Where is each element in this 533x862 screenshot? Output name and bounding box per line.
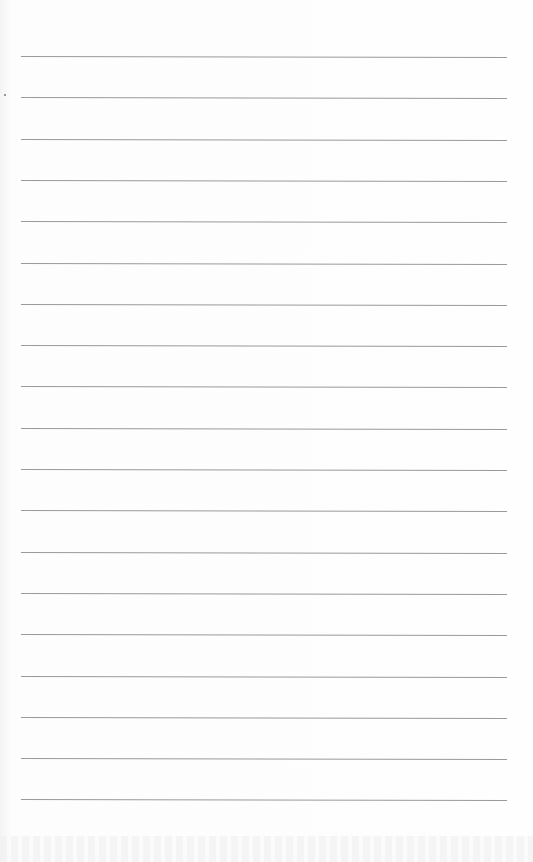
ruled-line <box>21 634 507 636</box>
ruled-line <box>21 139 507 141</box>
ruled-line <box>21 799 507 801</box>
ruled-line <box>21 758 507 760</box>
ruled-line <box>21 510 507 512</box>
ruled-line <box>21 97 507 99</box>
ruled-line <box>21 386 507 388</box>
ruled-line <box>21 56 507 58</box>
ruled-line <box>21 428 507 430</box>
ruled-line <box>21 221 507 223</box>
ruled-line <box>21 180 507 182</box>
ruled-page <box>0 0 533 862</box>
ruled-line <box>21 304 507 306</box>
ruled-line <box>21 593 507 595</box>
ruled-line <box>21 717 507 719</box>
bottom-bleed-through <box>0 836 533 862</box>
ruled-line <box>21 345 507 347</box>
ruled-line <box>21 676 507 678</box>
ruled-line <box>21 469 507 471</box>
ruled-line <box>21 552 507 554</box>
ruled-line <box>21 263 507 265</box>
stray-ink-mark <box>4 94 6 96</box>
